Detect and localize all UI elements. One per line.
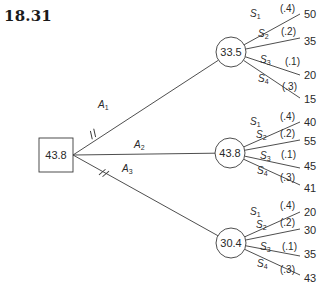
- state-label: S2: [256, 219, 267, 231]
- payoff-value: 30: [304, 224, 316, 236]
- state-label: S2: [256, 129, 267, 141]
- chance-node-value: 43.8: [219, 147, 240, 159]
- state-probability: (.1): [285, 56, 300, 67]
- chance-node-value: 30.4: [220, 237, 241, 249]
- payoff-value: 50: [304, 8, 316, 20]
- state-probability: (.2): [280, 128, 295, 139]
- alternative-branch-2: [73, 153, 215, 155]
- payoff-value: 35: [304, 35, 316, 47]
- state-probability: (.2): [280, 217, 295, 228]
- state-label: S3: [260, 54, 271, 66]
- state-branch: [246, 229, 300, 240]
- decision-node-value: 43.8: [45, 149, 66, 161]
- chance-node-value: 33.5: [220, 46, 241, 58]
- state-probability: (.3): [280, 264, 295, 275]
- state-label: S3: [260, 150, 271, 162]
- state-label: S3: [260, 241, 271, 253]
- payoff-value: 41: [304, 182, 316, 194]
- state-label: S4: [258, 73, 269, 85]
- state-probability: (.3): [280, 172, 295, 183]
- payoff-value: 20: [304, 69, 316, 81]
- state-probability: (.2): [281, 26, 296, 37]
- state-label: S2: [258, 28, 269, 40]
- state-probability: (.4): [280, 200, 295, 211]
- alternative-label-3: A3: [121, 163, 133, 175]
- state-probability: (.1): [281, 149, 296, 160]
- state-probability: (.3): [282, 81, 297, 92]
- payoff-value: 43: [304, 272, 316, 284]
- pruned-branch-mark-icon: [88, 129, 98, 140]
- state-label: S1: [250, 8, 261, 20]
- payoff-value: 35: [304, 248, 316, 260]
- payoff-value: 55: [304, 135, 316, 147]
- decision-tree: A1S1(.4)50S2(.2)35S3(.1)20S4(.3)1533.5A2…: [0, 0, 324, 290]
- state-label: S4: [257, 165, 268, 177]
- state-probability: (.4): [280, 3, 295, 14]
- decision-tree-figure: 18.31 A1S1(.4)50S2(.2)35S3(.1)20S4(.3)15…: [0, 0, 324, 290]
- alternative-label-2: A2: [133, 139, 145, 151]
- pruned-branch-mark-icon: [99, 168, 109, 178]
- alternative-branch-3: [73, 155, 218, 236]
- state-label: S4: [257, 258, 268, 270]
- alternative-label-1: A1: [97, 99, 109, 111]
- state-probability: (.1): [282, 241, 297, 252]
- state-label: S1: [250, 206, 261, 218]
- payoff-value: 15: [304, 93, 316, 105]
- state-probability: (.4): [280, 111, 295, 122]
- state-label: S1: [250, 116, 261, 128]
- payoff-value: 45: [304, 160, 316, 172]
- payoff-value: 40: [304, 116, 316, 128]
- alternative-branch-1: [73, 60, 218, 155]
- payoff-value: 20: [304, 206, 316, 218]
